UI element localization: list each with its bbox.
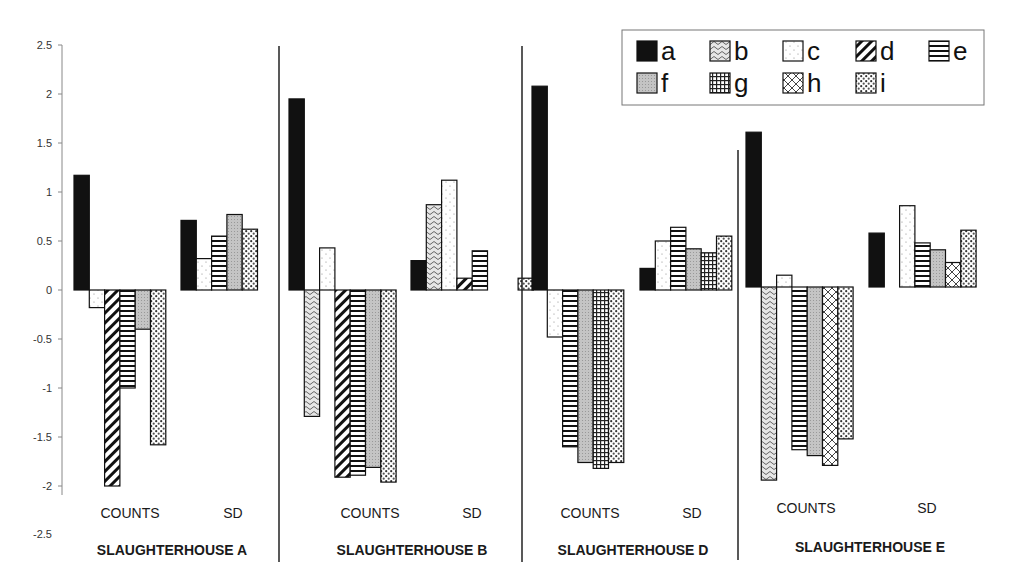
legend-item-d: d — [856, 36, 894, 66]
bar-counts-a — [289, 99, 304, 290]
bar-counts-g — [593, 290, 608, 468]
bar-counts-f — [135, 290, 150, 329]
bar-sd-e — [671, 227, 686, 290]
bar-sd-f — [227, 215, 242, 291]
y-tick-label: -2 — [42, 480, 52, 492]
legend-item-c: c — [783, 36, 820, 66]
legend: abcdefghi — [622, 30, 984, 105]
bar-counts-i — [838, 287, 853, 439]
y-tick-label: 1 — [46, 186, 52, 198]
bar-counts-e — [350, 290, 365, 475]
y-tick-label: -1 — [42, 382, 52, 394]
legend-item-f: f — [637, 68, 669, 98]
group-slaughterhouse-b: COUNTSSDSLAUGHTERHOUSE B — [279, 46, 533, 562]
legend-swatch-sparse-dots-icon — [783, 41, 803, 61]
bar-counts-e — [120, 290, 135, 388]
group-slaughterhouse-a: COUNTSSDSLAUGHTERHOUSE A — [74, 175, 258, 558]
bar-sd-a — [411, 261, 426, 290]
bar-sd-e — [212, 236, 227, 290]
bar-counts-i — [609, 290, 624, 463]
bar-counts-b — [761, 287, 776, 480]
legend-item-a: a — [637, 36, 676, 66]
bar-counts-a — [74, 175, 89, 290]
bar-sd-i — [717, 236, 732, 290]
y-axis-ticks: 2.521.510.50-0.5-1-1.5-2-2.5 — [33, 39, 62, 540]
legend-item-b: b — [710, 36, 748, 66]
category-label-counts: COUNTS — [340, 505, 399, 521]
bar-counts-a — [532, 86, 547, 290]
bar-counts-d — [105, 290, 120, 486]
y-tick-label: 0.5 — [37, 235, 52, 247]
y-tick-label: 0 — [46, 284, 52, 296]
bar-counts-c — [89, 290, 104, 308]
bar-sd-f — [930, 250, 945, 287]
bar-sd-a — [869, 233, 884, 287]
group-title: SLAUGHTERHOUSE B — [337, 542, 488, 558]
bar-sd-i — [518, 278, 533, 290]
bar-counts-f — [578, 290, 593, 463]
y-tick-label: 2.5 — [37, 39, 52, 51]
legend-label: i — [880, 68, 886, 98]
bar-sd-e — [472, 251, 487, 290]
bar-counts-b — [304, 290, 319, 416]
legend-item-e: e — [929, 36, 967, 66]
bar-counts-f — [807, 287, 822, 456]
legend-label: e — [953, 36, 967, 66]
bar-sd-h — [946, 263, 961, 288]
legend-swatch-dense-dots-icon — [856, 73, 876, 93]
slaughterhouse-groups: COUNTSSDSLAUGHTERHOUSE ACOUNTSSDSLAUGHTE… — [74, 46, 976, 562]
legend-swatch-solid-black-icon — [637, 41, 657, 61]
group-slaughterhouse-e: COUNTSSDSLAUGHTERHOUSE E — [738, 132, 976, 560]
bar-sd-g — [701, 253, 716, 290]
bar-counts-d — [335, 290, 350, 477]
bar-counts-f — [366, 290, 381, 467]
bar-counts-a — [746, 132, 761, 287]
legend-item-i: i — [856, 68, 886, 98]
bar-sd-c — [442, 180, 457, 290]
legend-label: f — [661, 68, 669, 98]
legend-label: h — [807, 68, 821, 98]
y-tick-label: 1.5 — [37, 137, 52, 149]
bar-sd-i — [242, 229, 257, 290]
bar-sd-c — [900, 206, 915, 287]
y-tick-label: -2.5 — [33, 528, 52, 540]
legend-item-h: h — [783, 68, 821, 98]
group-title: SLAUGHTERHOUSE E — [795, 539, 945, 555]
bar-counts-h — [823, 287, 838, 465]
category-label-sd: SD — [682, 505, 701, 521]
legend-swatch-diagonal-stripes-icon — [856, 41, 876, 61]
category-label-sd: SD — [462, 505, 481, 521]
legend-label: c — [807, 36, 820, 66]
category-label-counts: COUNTS — [560, 505, 619, 521]
category-label-sd: SD — [917, 500, 936, 516]
bar-counts-i — [381, 290, 396, 482]
group-slaughterhouse-d: COUNTSSDSLAUGHTERHOUSE D — [522, 46, 732, 562]
bar-counts-c — [547, 290, 562, 337]
bar-chart: 2.521.510.50-0.5-1-1.5-2-2.5 COUNTSSDSLA… — [0, 0, 1011, 588]
bar-sd-a — [181, 220, 196, 290]
y-tick-label: 2 — [46, 88, 52, 100]
legend-label: a — [661, 36, 676, 66]
legend-label: g — [734, 68, 748, 98]
bar-counts-c — [320, 248, 335, 290]
category-label-sd: SD — [223, 505, 242, 521]
bar-sd-a — [640, 268, 655, 290]
legend-swatch-gray-fine-icon — [637, 73, 657, 93]
y-tick-label: -0.5 — [33, 333, 52, 345]
y-axis: 2.521.510.50-0.5-1-1.5-2-2.5 — [33, 39, 62, 540]
bar-sd-i — [961, 230, 976, 287]
legend-swatch-wavy-icon — [710, 41, 730, 61]
legend-swatch-diamond-crosshatch-icon — [783, 73, 803, 93]
group-title: SLAUGHTERHOUSE D — [558, 542, 709, 558]
legend-swatch-horizontal-stripes-icon — [929, 41, 949, 61]
legend-item-g: g — [710, 68, 748, 98]
bar-sd-e — [915, 243, 930, 287]
group-title: SLAUGHTERHOUSE A — [97, 542, 247, 558]
bar-counts-e — [563, 290, 578, 447]
bar-counts-c — [777, 275, 792, 287]
bar-sd-d — [457, 278, 472, 290]
legend-swatch-grid-icon — [710, 73, 730, 93]
bar-sd-c — [655, 241, 670, 290]
bar-sd-c — [196, 259, 211, 290]
bar-counts-e — [792, 287, 807, 450]
